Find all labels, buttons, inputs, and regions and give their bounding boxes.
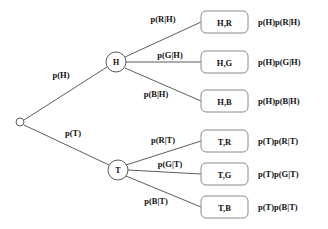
- outcome-label-tr: T,R: [218, 137, 232, 147]
- stage1-node-t[interactable]: T: [108, 160, 128, 180]
- edge-label-p-h: p(H): [53, 70, 70, 80]
- outcome-label-hr: H,R: [217, 18, 233, 28]
- tree-canvas: H T p(H) p(T) p(R|H) p(G|H) p(B|H) p(R|T…: [0, 0, 328, 229]
- outcome-label-hb: H,B: [217, 97, 232, 107]
- edge-label-p-b-given-h: p(B|H): [144, 89, 169, 99]
- edge-t-to-tg: [128, 170, 201, 174]
- result-label-hr: p(H)p(R|H): [258, 17, 300, 27]
- outcome-node-hg[interactable]: H,G: [201, 51, 248, 73]
- edge-label-p-g-given-h: p(G|H): [157, 50, 183, 60]
- node-h-label: H: [113, 58, 120, 67]
- outcome-label-tg: T,G: [218, 170, 232, 180]
- outcome-node-hr[interactable]: H,R: [201, 11, 248, 33]
- result-label-hg: p(H)p(G|H): [258, 57, 301, 67]
- outcome-node-tr[interactable]: T,R: [201, 130, 248, 152]
- node-t-label: T: [115, 166, 121, 175]
- probability-tree-diagram: H T p(H) p(T) p(R|H) p(G|H) p(B|H) p(R|T…: [0, 0, 328, 229]
- result-label-tg: p(T)p(G|T): [258, 169, 299, 179]
- result-label-tb: p(T)p(B|T): [258, 202, 298, 212]
- edge-label-p-r-given-h: p(R|H): [150, 14, 175, 24]
- outcome-label-tb: T,B: [218, 203, 231, 213]
- outcome-node-tg[interactable]: T,G: [201, 163, 248, 185]
- outcome-node-hb[interactable]: H,B: [201, 90, 248, 112]
- edge-label-p-t: p(T): [65, 128, 81, 138]
- stage1-node-h[interactable]: H: [106, 52, 126, 72]
- outcome-label-hg: H,G: [217, 58, 233, 68]
- result-label-tr: p(T)p(R|T): [258, 136, 298, 146]
- outcome-node-tb[interactable]: T,B: [201, 196, 248, 218]
- edge-label-p-g-given-t: p(G|T): [158, 159, 183, 169]
- edge-label-p-r-given-t: p(R|T): [151, 135, 175, 145]
- edge-label-p-b-given-t: p(B|T): [144, 196, 168, 206]
- result-label-hb: p(H)p(B|H): [258, 96, 300, 106]
- root-node[interactable]: [16, 118, 24, 126]
